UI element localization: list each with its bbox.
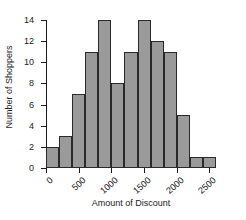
y-axis-tick-mark [41, 147, 46, 148]
y-axis-tick-label: 4 [18, 122, 34, 131]
x-axis-tick-mark [111, 168, 112, 173]
y-axis-tick-label: 12 [18, 37, 34, 46]
y-axis-tick-label: 2 [18, 143, 34, 152]
plot-area [46, 20, 216, 168]
y-axis-tick-label: 14 [18, 16, 34, 25]
y-axis-label: Number of Shoppers [2, 2, 16, 172]
y-axis-tick-mark [41, 83, 46, 84]
histogram-bar [85, 52, 98, 168]
histogram-bar [124, 52, 137, 168]
y-axis-tick-mark [41, 62, 46, 63]
histogram-bar [164, 52, 177, 168]
y-axis-tick-label: 8 [18, 79, 34, 88]
y-axis-tick-mark [41, 126, 46, 127]
histogram-bar [177, 115, 190, 168]
histogram-bar [46, 147, 59, 168]
y-axis-tick-mark [41, 20, 46, 21]
histogram-bar [138, 20, 151, 168]
y-axis-tick-label: 10 [18, 58, 34, 67]
y-axis-tick-label: 6 [18, 101, 34, 110]
histogram-bar [98, 20, 111, 168]
y-axis-tick-mark [41, 41, 46, 42]
histogram-bar [151, 41, 164, 168]
x-axis-tick-mark [46, 168, 47, 173]
x-axis-tick-mark [177, 168, 178, 173]
x-axis-tick-mark [79, 168, 80, 173]
x-axis-tick-mark [144, 168, 145, 173]
y-axis-tick-labels: 02468101214 [16, 0, 34, 220]
x-axis-tick-mark [209, 168, 210, 173]
histogram-bar [72, 94, 85, 168]
histogram-bar [190, 157, 203, 168]
histogram-bar [59, 136, 72, 168]
y-axis-tick-label: 0 [18, 164, 34, 173]
histogram-bar [203, 157, 216, 168]
histogram-bar [111, 83, 124, 168]
histogram-chart: Number of Shoppers 02468101214 Amount of… [0, 0, 246, 220]
y-axis-tick-mark [41, 105, 46, 106]
